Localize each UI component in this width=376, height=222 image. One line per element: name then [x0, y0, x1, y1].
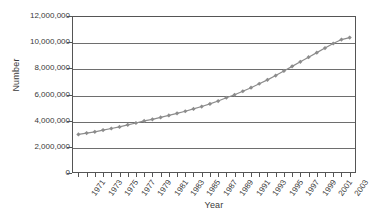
gridline	[73, 43, 355, 44]
x-tick-mark	[78, 173, 79, 177]
x-tick-label: 1985	[205, 178, 223, 198]
x-tick-label: 1981	[172, 178, 190, 198]
x-tick-mark	[128, 173, 129, 177]
x-tick-label: 1987	[222, 178, 240, 198]
x-tick-mark	[317, 173, 318, 177]
x-tick-mark	[103, 173, 104, 177]
x-tick-mark	[169, 173, 170, 177]
gridline	[73, 96, 355, 97]
x-tick-mark	[300, 173, 301, 177]
x-tick-mark	[95, 173, 96, 177]
y-tick-label: 6,000,000	[8, 91, 70, 99]
x-tick-label: 1995	[287, 178, 305, 198]
line-chart: Number 12,000,00010,000,0008,000,0006,00…	[0, 0, 376, 222]
y-axis-ticks: 12,000,00010,000,0008,000,0006,000,0004,…	[0, 0, 70, 222]
y-tick-label: 4,000,000	[8, 117, 70, 125]
x-tick-label: 1973	[106, 178, 124, 198]
y-tick-label: 0	[8, 169, 70, 177]
x-tick-label: 1971	[90, 178, 108, 198]
y-tick-label: 8,000,000	[8, 64, 70, 72]
x-tick-mark	[350, 173, 351, 177]
x-tick-label: 1993	[271, 178, 289, 198]
x-tick-mark	[292, 173, 293, 177]
x-tick-label: 1975	[123, 178, 141, 198]
x-tick-mark	[202, 173, 203, 177]
x-tick-mark	[284, 173, 285, 177]
x-tick-mark	[185, 173, 186, 177]
x-tick-mark	[193, 173, 194, 177]
x-tick-label: 1979	[156, 178, 174, 198]
plot-area	[72, 16, 356, 173]
x-tick-mark	[111, 173, 112, 177]
y-tick-label: 12,000,000	[8, 12, 70, 20]
x-tick-label: 1991	[254, 178, 272, 198]
x-tick-mark	[136, 173, 137, 177]
x-tick-mark	[226, 173, 227, 177]
x-tick-mark	[218, 173, 219, 177]
x-tick-label: 1999	[320, 178, 338, 198]
x-tick-mark	[309, 173, 310, 177]
x-tick-mark	[152, 173, 153, 177]
y-tick-mark	[67, 173, 72, 174]
x-axis-title: Year	[72, 200, 356, 210]
x-tick-mark	[210, 173, 211, 177]
x-tick-mark	[267, 173, 268, 177]
x-tick-label: 1997	[304, 178, 322, 198]
x-tick-mark	[235, 173, 236, 177]
x-tick-mark	[243, 173, 244, 177]
y-tick-label: 2,000,000	[8, 143, 70, 151]
x-tick-label: 2003	[353, 178, 371, 198]
x-tick-mark	[259, 173, 260, 177]
x-tick-mark	[87, 173, 88, 177]
x-tick-mark	[325, 173, 326, 177]
x-tick-label: 1977	[139, 178, 157, 198]
x-tick-label: 1983	[189, 178, 207, 198]
x-tick-mark	[177, 173, 178, 177]
x-tick-mark	[120, 173, 121, 177]
x-tick-mark	[276, 173, 277, 177]
x-tick-label: 1989	[238, 178, 256, 198]
x-tick-mark	[144, 173, 145, 177]
x-tick-label: 2001	[337, 178, 355, 198]
y-tick-label: 10,000,000	[8, 38, 70, 46]
x-tick-mark	[333, 173, 334, 177]
x-tick-mark	[161, 173, 162, 177]
x-tick-mark	[341, 173, 342, 177]
gridline	[73, 148, 355, 149]
gridline	[73, 122, 355, 123]
x-tick-mark	[251, 173, 252, 177]
gridline	[73, 69, 355, 70]
